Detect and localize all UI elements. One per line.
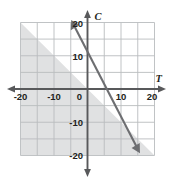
origin-label: 0 [77, 91, 82, 102]
x-tick-label-20: 20 [147, 91, 158, 102]
y-axis-name-label: C [95, 11, 103, 22]
x-tick-label-10: 10 [116, 91, 127, 102]
y-tick-label-20: 20 [72, 18, 83, 29]
x-axis-right-arrow [158, 86, 166, 93]
graph-canvas: -20 -10 0 10 20 20 10 -10 -20 C T [0, 0, 170, 180]
x-axis-name-label: T [156, 73, 163, 84]
x-tick-label--20: -20 [14, 91, 28, 102]
y-axis-top-arrow [84, 10, 91, 18]
y-tick-label-10: 10 [72, 51, 83, 62]
y-axis-bottom-arrow [84, 169, 91, 177]
x-tick-label--10: -10 [47, 91, 61, 102]
coordinate-plane-figure: -20 -10 0 10 20 20 10 -10 -20 C T [0, 0, 170, 180]
y-tick-label--10: -10 [69, 117, 83, 128]
y-tick-label--20: -20 [69, 150, 83, 161]
